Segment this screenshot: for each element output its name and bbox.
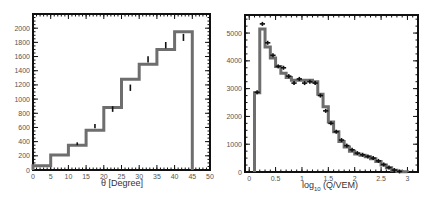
y-tick-label: 600 (18, 124, 30, 131)
y-tick-label: 1000 (226, 141, 242, 148)
x-tick-label: 3 (405, 175, 409, 182)
x-tick-label: 35 (153, 173, 161, 180)
x-axis-title-rest: (Q/VEM) (321, 180, 359, 190)
charge-histogram-panel: 00.511.522.53010002000300040005000 (226, 15, 418, 182)
y-tick-label: 800 (18, 110, 30, 117)
plot-frame (245, 15, 418, 172)
theta-histogram-panel: 0510152025303540455002004006008001000120… (14, 14, 214, 180)
y-tick-label: 4000 (226, 57, 242, 64)
y-tick-label: 0 (26, 167, 30, 174)
y-tick-label: 3000 (226, 85, 242, 92)
data-point (260, 22, 265, 26)
y-tick-label: 1000 (14, 96, 30, 103)
x-axis-title-left: θ [Degree] (101, 178, 143, 188)
y-tick-label: 200 (18, 152, 30, 159)
x-tick-label: 0.5 (271, 175, 281, 182)
x-tick-label: 2.5 (376, 175, 386, 182)
x-axis-title-right: log10 (Q/VEM) (302, 180, 358, 192)
histogram-step-line (254, 29, 407, 172)
x-tick-label: 5 (49, 173, 53, 180)
y-tick-label: 1800 (14, 39, 30, 46)
y-tick-label: 1400 (14, 67, 30, 74)
figure: 0510152025303540455002004006008001000120… (0, 0, 436, 206)
y-tick-label: 2000 (14, 25, 30, 32)
y-tick-label: 2000 (226, 113, 242, 120)
y-tick-label: 1200 (14, 81, 30, 88)
y-tick-label: 0 (238, 169, 242, 176)
y-tick-label: 1600 (14, 53, 30, 60)
x-tick-label: 0 (247, 175, 251, 182)
x-tick-label: 10 (65, 173, 73, 180)
histogram-step-line (33, 32, 192, 170)
x-tick-label: 50 (206, 173, 214, 180)
x-tick-label: 40 (171, 173, 179, 180)
x-tick-label: 45 (188, 173, 196, 180)
y-tick-label: 400 (18, 138, 30, 145)
y-tick-label: 5000 (226, 30, 242, 37)
x-tick-label: 0 (31, 173, 35, 180)
x-tick-label: 15 (82, 173, 90, 180)
x-axis-title-log: log (302, 180, 314, 190)
